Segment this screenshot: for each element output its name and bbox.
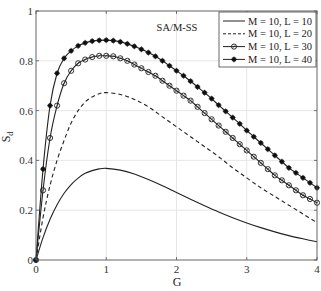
legend-label: M = 10, L = 20 (248, 28, 312, 39)
y-axis-label: S (0, 136, 13, 143)
y-tick-label: 1 (28, 5, 34, 17)
svg-text:Sd: Sd (0, 132, 15, 143)
y-tick-label: 0 (28, 254, 34, 266)
x-tick-label: 0 (33, 263, 39, 275)
y-tick-label: 0.6 (19, 105, 33, 117)
legend: M = 10, L = 10M = 10, L = 20M = 10, L = … (219, 12, 316, 67)
x-tick-label: 4 (314, 263, 320, 275)
annotation: SA/M-SS (157, 22, 198, 33)
y-tick-label: 0.2 (19, 204, 33, 216)
legend-label: M = 10, L = 30 (248, 41, 312, 52)
y-tick-label: 0.4 (19, 154, 33, 166)
y-axis-label-group: Sd (0, 132, 15, 143)
y-axis-label-subscript: d (6, 132, 15, 136)
legend-label: M = 10, L = 10 (248, 16, 312, 27)
x-tick-label: 1 (104, 263, 110, 275)
legend-label: M = 10, L = 40 (248, 54, 312, 65)
y-tick-label: 0.8 (19, 55, 33, 67)
x-axis-label: G (173, 275, 182, 289)
chart: 0123400.20.40.60.81 SA/M-SS M = 10, L = … (0, 0, 321, 291)
x-tick-label: 2 (174, 263, 180, 275)
x-tick-label: 3 (244, 263, 250, 275)
